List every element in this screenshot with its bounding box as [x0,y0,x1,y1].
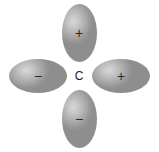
central-atom-label: C [69,68,89,84]
lobe-sign-bottom: − [71,111,87,127]
lobe-sign-right: + [113,68,129,84]
orbital-diagram: + + − − C [0,0,159,152]
lobe-sign-top: + [71,25,87,41]
lobe-sign-left: − [30,68,46,84]
